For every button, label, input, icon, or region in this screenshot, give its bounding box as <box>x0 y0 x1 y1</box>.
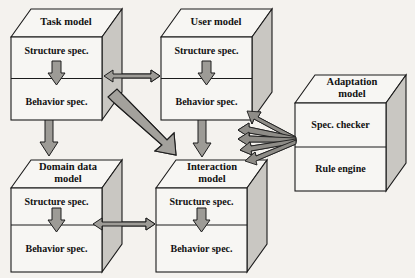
box-user-model[interactable]: User model Structure spec. Behavior spec… <box>161 9 272 120</box>
task-model-title: Task model <box>40 16 91 27</box>
box-domain-data-model[interactable]: Domain data model Structure spec. Behavi… <box>11 160 122 272</box>
connector-domain-interaction-overlay <box>93 218 155 230</box>
diagram-canvas: Task model Structure spec. Behavior spec… <box>0 0 415 278</box>
domain-data-model-title-line2: model <box>54 173 81 184</box>
box-task-model[interactable]: Task model Structure spec. Behavior spec… <box>11 9 122 120</box>
adaptation-model-cell-rule-engine: Rule engine <box>315 163 366 174</box>
domain-data-model-cell-behavior: Behavior spec. <box>25 243 88 254</box>
user-model-title: User model <box>191 16 242 27</box>
interaction-model-title-line1: Interaction <box>187 161 237 172</box>
interaction-model-cell-structure: Structure spec. <box>169 196 234 207</box>
user-model-cell-behavior: Behavior spec. <box>175 96 238 107</box>
box-adaptation-model[interactable]: Adaptation model Spec. checker Rule engi… <box>295 75 406 191</box>
adaptation-model-title-line1: Adaptation <box>327 76 378 87</box>
domain-data-model-cell-structure: Structure spec. <box>24 196 89 207</box>
adaptation-model-title-line2: model <box>338 88 365 99</box>
interaction-model-cell-behavior: Behavior spec. <box>170 243 233 254</box>
box-interaction-model[interactable]: Interaction model Structure spec. Behavi… <box>156 160 267 272</box>
interaction-model-title-line2: model <box>198 173 225 184</box>
architecture-diagram: Task model Structure spec. Behavior spec… <box>0 0 415 278</box>
user-model-cell-structure: Structure spec. <box>174 45 239 56</box>
adaptation-model-cell-spec-checker: Spec. checker <box>311 119 370 130</box>
task-model-cell-behavior: Behavior spec. <box>25 96 88 107</box>
domain-data-model-title-line1: Domain data <box>39 161 98 172</box>
connector-task-user-overlay <box>104 70 160 82</box>
task-model-cell-structure: Structure spec. <box>24 45 89 56</box>
